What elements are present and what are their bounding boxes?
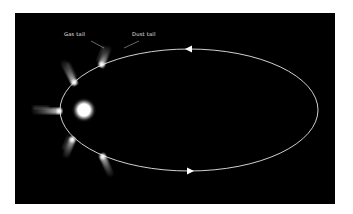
sun-icon — [78, 104, 91, 117]
dust-tail-label: Dust tail — [132, 31, 156, 37]
gas-tail-label: Gas tail — [64, 31, 85, 37]
comet-orbit-diagram: Gas tail Dust tail — [0, 0, 353, 214]
diagram-background — [15, 13, 335, 204]
